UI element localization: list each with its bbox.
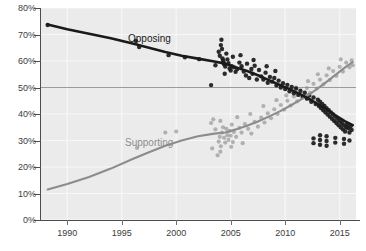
- chart-figure: 0%10%20%30%40%50%60%70%80% Opposing Supp…: [0, 0, 366, 251]
- series-label-supporting: Supporting: [125, 137, 173, 148]
- y-tick-label: 0%: [2, 215, 36, 225]
- y-tick-label: 50%: [2, 83, 36, 93]
- x-tick-label: 1995: [112, 228, 132, 238]
- x-tick-mark: [67, 220, 68, 225]
- y-tick-mark: [34, 8, 40, 9]
- x-tick-mark: [285, 220, 286, 225]
- trend-line-opposing: [48, 24, 353, 125]
- scatter-points-opposing: [45, 23, 353, 148]
- y-tick-mark: [34, 220, 40, 221]
- x-tick-mark: [122, 220, 123, 225]
- y-tick-label: 80%: [2, 3, 36, 13]
- y-tick-mark: [34, 194, 40, 195]
- y-tick-label: 20%: [2, 162, 36, 172]
- y-axis-line: [40, 8, 41, 220]
- y-tick-label: 30%: [2, 136, 36, 146]
- y-tick-mark: [34, 35, 40, 36]
- x-tick-mark: [340, 220, 341, 225]
- y-tick-mark: [34, 61, 40, 62]
- x-axis-line: [40, 220, 360, 221]
- x-tick-label: 2015: [330, 228, 350, 238]
- y-tick-label: 40%: [2, 109, 36, 119]
- chart-canvas: [40, 8, 356, 220]
- y-tick-mark: [34, 167, 40, 168]
- x-tick-label: 1990: [57, 228, 77, 238]
- x-tick-mark: [231, 220, 232, 225]
- y-tick-mark: [34, 114, 40, 115]
- horizontal-gridlines: [40, 8, 356, 220]
- x-tick-label: 2010: [275, 228, 295, 238]
- plot-area: Opposing Supporting: [40, 8, 356, 220]
- y-tick-mark: [34, 88, 40, 89]
- y-tick-label: 70%: [2, 30, 36, 40]
- x-tick-label: 2005: [221, 228, 241, 238]
- x-tick-mark: [176, 220, 177, 225]
- y-tick-mark: [34, 141, 40, 142]
- y-tick-label: 10%: [2, 189, 36, 199]
- y-tick-label: 60%: [2, 56, 36, 66]
- x-tick-label: 2000: [166, 228, 186, 238]
- series-label-opposing: Opposing: [128, 33, 171, 44]
- y-axis-labels: 0%10%20%30%40%50%60%70%80%: [0, 0, 36, 251]
